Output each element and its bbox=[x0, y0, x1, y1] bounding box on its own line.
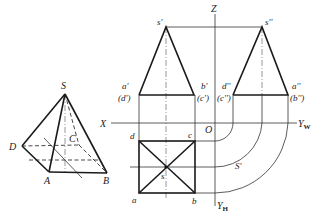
label-S-prime-arc: S' bbox=[235, 161, 243, 171]
label-O: O bbox=[205, 124, 212, 135]
orthographic-projection-diagram: S D C A B X Z O YW YH s' a' (d') b' (c')… bbox=[0, 0, 315, 214]
hidden-edge-cb bbox=[79, 145, 107, 173]
front-triangle bbox=[139, 27, 194, 95]
arc-outer bbox=[195, 95, 288, 193]
label-d-double-prime: d'' bbox=[222, 81, 231, 91]
label-b-prime: b' bbox=[201, 81, 209, 91]
edge-sd bbox=[22, 94, 65, 146]
label-A: A bbox=[43, 175, 51, 186]
label-s-prime: s' bbox=[157, 17, 164, 27]
label-d-prime: (d') bbox=[118, 93, 130, 103]
projection-axes: X Z O YW YH bbox=[99, 3, 311, 213]
label-Z: Z bbox=[211, 3, 217, 14]
label-d: d bbox=[130, 131, 135, 141]
label-c: c bbox=[188, 130, 192, 140]
label-s: s bbox=[161, 171, 165, 181]
arc-middle bbox=[130, 95, 262, 167]
edge-da bbox=[22, 146, 49, 172]
label-b-double-prime: (b'') bbox=[290, 93, 304, 103]
edge-ab bbox=[49, 172, 107, 173]
side-view: s'' d'' (c'') a'' (b'') bbox=[217, 17, 304, 103]
label-D: D bbox=[8, 141, 17, 152]
label-a-prime: a' bbox=[122, 81, 130, 91]
side-triangle bbox=[233, 27, 288, 95]
label-a: a bbox=[132, 195, 137, 205]
label-X: X bbox=[99, 118, 107, 129]
apex-point-s bbox=[164, 165, 167, 168]
label-c-prime: (c') bbox=[197, 93, 209, 103]
label-YH: YH bbox=[217, 200, 229, 213]
label-YW: YW bbox=[298, 118, 311, 131]
label-S: S bbox=[61, 80, 66, 91]
top-view: d c a b s bbox=[130, 130, 197, 206]
label-C: C bbox=[69, 133, 76, 144]
label-b: b bbox=[192, 196, 197, 206]
pyramid-3d: S D C A B bbox=[8, 80, 109, 186]
label-B: B bbox=[103, 175, 109, 186]
label-c-double-prime: (c'') bbox=[217, 93, 231, 103]
label-s-double-prime: s'' bbox=[265, 17, 273, 27]
label-a-double-prime: a'' bbox=[292, 81, 301, 91]
